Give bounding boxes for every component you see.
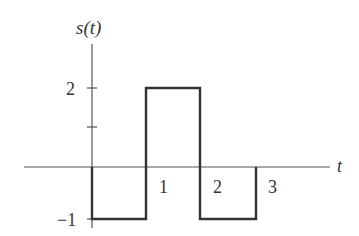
y-tick-label-neg1: −1: [57, 210, 76, 230]
x-tick-label-3: 3: [268, 177, 277, 197]
x-tick-label-2: 2: [213, 177, 222, 197]
signal-plot: s(t) t 2 −1 1 2 3: [0, 0, 359, 236]
x-axis-label: t: [337, 156, 343, 176]
y-tick-label-2: 2: [66, 79, 75, 99]
x-tick-label-1: 1: [159, 177, 168, 197]
signal-waveform: [92, 88, 256, 219]
y-axis-label: s(t): [76, 17, 101, 39]
